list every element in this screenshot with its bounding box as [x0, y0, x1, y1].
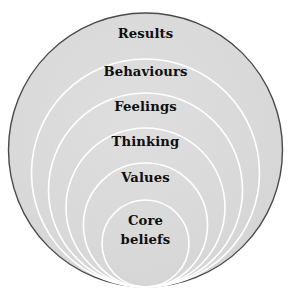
label-behaviours: Behaviours: [0, 64, 291, 80]
label-feelings: Feelings: [0, 99, 291, 115]
circles-canvas: [0, 0, 291, 301]
label-values: Values: [0, 170, 291, 186]
label-thinking: Thinking: [0, 134, 291, 150]
nested-circles-diagram: Results Behaviours Feelings Thinking Val…: [0, 0, 291, 301]
label-core-beliefs: Core beliefs: [0, 212, 291, 249]
label-results: Results: [0, 26, 291, 42]
